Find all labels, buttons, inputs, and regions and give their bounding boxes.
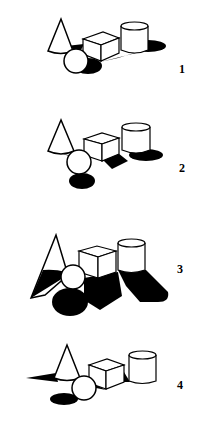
sphere-icon bbox=[72, 376, 96, 400]
solids-illustration-1 bbox=[0, 0, 201, 105]
cone-icon bbox=[48, 120, 74, 154]
panel-4: 4 bbox=[0, 320, 201, 431]
sphere-icon bbox=[61, 265, 85, 289]
panel-2: 2 bbox=[0, 105, 201, 200]
sphere-icon bbox=[64, 49, 88, 73]
cylinder-shadow bbox=[118, 270, 168, 302]
solids-illustration-4 bbox=[0, 320, 201, 431]
sphere-icon bbox=[67, 150, 91, 174]
panel-label: 1 bbox=[179, 62, 185, 77]
cone-shadow bbox=[26, 373, 58, 382]
cylinder-icon bbox=[121, 22, 148, 53]
sphere-shadow bbox=[69, 173, 95, 189]
panel-label: 4 bbox=[177, 378, 183, 393]
solids-illustration-3 bbox=[0, 200, 201, 320]
cylinder-icon bbox=[122, 123, 150, 153]
panel-1: 1 bbox=[0, 0, 201, 105]
solids-illustration-2 bbox=[0, 105, 201, 200]
cube-shadow bbox=[84, 272, 122, 310]
sphere-shadow bbox=[52, 288, 88, 316]
cube-icon bbox=[83, 32, 119, 61]
panel-3: 3 bbox=[0, 200, 201, 320]
panel-label: 2 bbox=[179, 161, 185, 176]
cylinder-icon bbox=[118, 239, 145, 273]
cone-icon bbox=[54, 345, 80, 381]
cylinder-icon bbox=[129, 351, 156, 384]
cone-icon bbox=[48, 19, 73, 54]
panel-label: 3 bbox=[177, 262, 183, 277]
